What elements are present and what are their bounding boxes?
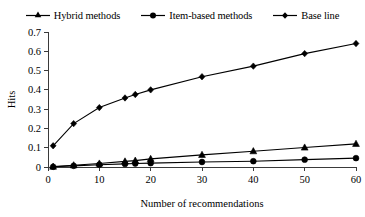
triangle-marker-icon <box>26 10 50 21</box>
x-axis-title: Number of recommendations <box>140 198 263 209</box>
data-point <box>353 140 360 146</box>
x-axis: 0102030405060 <box>45 167 361 185</box>
diamond-marker-icon <box>273 10 297 21</box>
x-tick-label: 60 <box>351 174 362 185</box>
legend-item-base-line: Base line <box>273 10 339 21</box>
data-point <box>122 95 128 101</box>
data-point <box>71 163 77 169</box>
legend-item-hybrid-methods: Hybrid methods <box>26 10 121 21</box>
x-tick-label: 0 <box>45 174 50 185</box>
y-tick-label: 0.7 <box>28 27 41 38</box>
data-point <box>302 157 308 163</box>
data-point <box>96 162 102 168</box>
data-point <box>199 74 205 80</box>
chart-figure: Hybrid methods Item-based methods Base l… <box>0 0 365 217</box>
x-tick-label: 10 <box>94 174 105 185</box>
data-point <box>148 160 154 166</box>
data-series <box>50 40 359 149</box>
y-tick-label: 0.5 <box>28 65 41 76</box>
y-tick-label: 0.3 <box>28 104 41 115</box>
data-point <box>122 161 128 167</box>
data-point <box>250 63 256 69</box>
data-point <box>250 158 256 164</box>
legend-item-item-based-methods: Item-based methods <box>141 10 252 21</box>
chart-canvas: 00.10.20.30.40.50.60.7 0102030405060 Hit… <box>0 24 365 217</box>
data-point <box>148 87 154 93</box>
data-point <box>50 164 56 170</box>
legend-label-hybrid-methods: Hybrid methods <box>54 10 121 21</box>
chart-plot-area: 00.10.20.30.40.50.60.7 0102030405060 Hit… <box>0 24 365 217</box>
y-tick-label: 0.1 <box>28 142 41 153</box>
y-tick-label: 0.6 <box>28 46 41 57</box>
x-tick-label: 40 <box>248 174 259 185</box>
data-point <box>302 50 308 56</box>
x-tick-label: 30 <box>197 174 208 185</box>
x-tick-label: 20 <box>145 174 156 185</box>
legend-label-item-based-methods: Item-based methods <box>169 10 252 21</box>
y-axis: 00.10.20.30.40.50.60.7 <box>28 27 48 173</box>
data-series-group <box>50 40 360 169</box>
data-point <box>132 91 138 97</box>
y-tick-label: 0.2 <box>28 123 41 134</box>
circle-marker-icon <box>141 10 165 21</box>
chart-legend: Hybrid methods Item-based methods Base l… <box>0 6 365 24</box>
y-axis-title: Hits <box>6 91 17 109</box>
data-point <box>96 104 102 110</box>
legend-label-base-line: Base line <box>301 10 339 21</box>
y-tick-label: 0.4 <box>28 84 42 95</box>
data-point <box>353 155 359 161</box>
data-point <box>199 159 205 165</box>
y-tick-label: 0 <box>36 162 41 173</box>
data-point <box>353 40 359 46</box>
data-point <box>132 161 138 167</box>
x-tick-label: 50 <box>299 174 310 185</box>
